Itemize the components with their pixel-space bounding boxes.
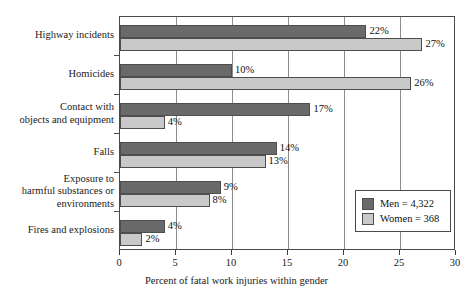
bar-men	[120, 103, 310, 116]
category-label: Contact withobjects and equipment	[0, 101, 114, 126]
gridline	[344, 17, 345, 249]
value-label: 4%	[168, 220, 182, 231]
x-axis-title: Percent of fatal work injuries within ge…	[0, 275, 473, 286]
legend-item-women: Women = 368	[362, 211, 444, 226]
bar-men	[120, 64, 232, 77]
legend-swatch-women-icon	[362, 213, 374, 225]
gridline	[288, 17, 289, 249]
category-label-line: Highway incidents	[0, 29, 114, 42]
x-axis-tick-label: 0	[116, 257, 121, 269]
x-axis-tick-label: 15	[282, 257, 293, 269]
y-axis-tick	[114, 211, 119, 212]
x-axis-tick	[119, 250, 120, 255]
x-axis-tick	[399, 250, 400, 255]
category-label-line: Contact with	[0, 101, 114, 114]
bar-women	[120, 77, 411, 90]
category-label-line: Exposure to	[0, 173, 114, 186]
category-label: Fires and explosions	[0, 224, 114, 237]
bar-women	[120, 38, 422, 51]
category-label: Homicides	[0, 68, 114, 81]
value-label: 10%	[235, 64, 254, 75]
legend: Men = 4,322 Women = 368	[355, 190, 451, 232]
bar-men	[120, 142, 277, 155]
category-label-line: harmful substances or	[0, 185, 114, 198]
value-label: 26%	[414, 77, 433, 88]
y-axis-tick	[114, 172, 119, 173]
bar-women	[120, 155, 266, 168]
value-label: 27%	[425, 38, 444, 49]
value-label: 14%	[280, 142, 299, 153]
legend-swatch-men-icon	[362, 198, 374, 210]
bar-men	[120, 181, 221, 194]
x-axis-tick	[231, 250, 232, 255]
value-label: 9%	[224, 181, 238, 192]
bar-women	[120, 194, 210, 207]
y-axis-tick	[114, 94, 119, 95]
value-label: 8%	[213, 194, 227, 205]
category-label: Exposure toharmful substances orenvironm…	[0, 173, 114, 211]
x-axis-tick	[343, 250, 344, 255]
category-label-line: environments	[0, 198, 114, 211]
category-label: Highway incidents	[0, 29, 114, 42]
x-axis-tick-label: 10	[226, 257, 237, 269]
y-axis-tick	[114, 55, 119, 56]
category-label-line: objects and equipment	[0, 114, 114, 127]
x-axis-tick	[287, 250, 288, 255]
x-axis-tick-label: 30	[450, 257, 461, 269]
value-label: 2%	[145, 233, 159, 244]
legend-label-men: Men = 4,322	[380, 198, 434, 210]
x-axis-tick-label: 5	[172, 257, 177, 269]
bar-women	[120, 233, 142, 246]
category-label: Falls	[0, 146, 114, 159]
x-axis-tick-label: 25	[394, 257, 405, 269]
x-axis-tick-label: 20	[338, 257, 349, 269]
x-axis-tick	[175, 250, 176, 255]
bar-women	[120, 116, 165, 129]
x-axis-tick	[455, 250, 456, 255]
bar-men	[120, 25, 366, 38]
category-label-line: Falls	[0, 146, 114, 159]
category-label-line: Homicides	[0, 68, 114, 81]
gridline	[176, 17, 177, 249]
value-label: 13%	[269, 155, 288, 166]
gridline	[232, 17, 233, 249]
bar-chart: Highway incidentsHomicidesContact withob…	[0, 0, 473, 298]
bar-men	[120, 220, 165, 233]
legend-label-women: Women = 368	[380, 213, 439, 225]
category-label-line: Fires and explosions	[0, 224, 114, 237]
value-label: 4%	[168, 116, 182, 127]
legend-item-men: Men = 4,322	[362, 196, 444, 211]
y-axis-tick	[114, 133, 119, 134]
value-label: 22%	[369, 25, 388, 36]
value-label: 17%	[313, 103, 332, 114]
